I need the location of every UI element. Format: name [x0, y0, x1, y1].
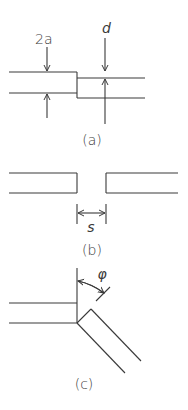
rotated-waveguide	[77, 309, 141, 373]
caption-c: (c)	[75, 376, 94, 392]
right-waveguide	[77, 78, 145, 98]
left-waveguide	[9, 303, 77, 323]
label-phi: φ	[97, 266, 107, 282]
panel-c: φ (c)	[9, 266, 141, 392]
label-2a: 2a	[35, 31, 53, 47]
caption-a: (a)	[82, 132, 102, 148]
waveguide-discontinuity-diagram: 2a d (a) s (b)	[0, 0, 188, 410]
left-waveguide	[9, 72, 77, 93]
angle-dimension-phi: φ	[78, 266, 110, 301]
label-s: s	[87, 219, 94, 235]
caption-b: (b)	[82, 242, 102, 258]
gap-dimension-s: s	[77, 204, 106, 235]
offset-dimension-d: d	[102, 20, 111, 124]
right-waveguide	[106, 173, 178, 193]
label-d: d	[102, 20, 111, 36]
width-dimension-2a: 2a	[35, 31, 53, 118]
panel-a: 2a d (a)	[9, 20, 145, 148]
left-waveguide	[9, 173, 77, 193]
panel-b: s (b)	[9, 173, 178, 258]
